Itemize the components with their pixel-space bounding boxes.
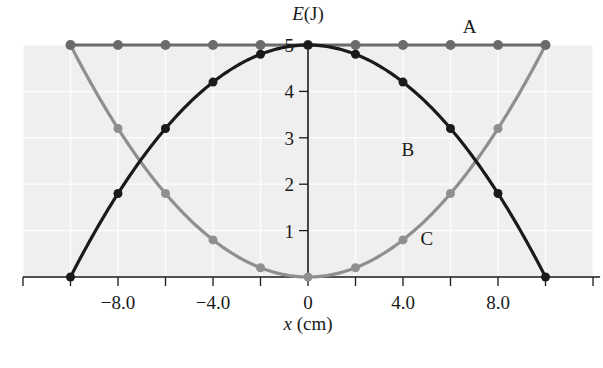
data-point xyxy=(541,40,551,50)
data-point xyxy=(161,40,171,50)
x-tick-label: 4.0 xyxy=(391,292,415,313)
y-tick-label: 1 xyxy=(285,221,295,242)
data-point xyxy=(541,273,550,282)
y-tick-label: 2 xyxy=(285,174,295,195)
data-point xyxy=(494,189,503,198)
data-point xyxy=(66,273,75,282)
y-axis-label: E(J) xyxy=(291,3,324,25)
data-point xyxy=(446,189,455,198)
x-axis-label: x (cm) xyxy=(282,313,332,335)
data-point xyxy=(446,40,456,50)
data-point xyxy=(399,78,408,87)
data-point xyxy=(493,40,503,50)
data-point xyxy=(351,50,360,59)
data-point xyxy=(399,235,408,244)
y-tick-label: 3 xyxy=(285,128,295,149)
data-point xyxy=(256,50,265,59)
data-point xyxy=(161,124,170,133)
energy-vs-position-chart: −8.0−4.004.08.012345 E(J) x (cm) ABC xyxy=(0,0,603,368)
x-tick-label: −4.0 xyxy=(196,292,230,313)
x-tick-label: 8.0 xyxy=(486,292,510,313)
series-label-C: C xyxy=(420,228,433,249)
data-point xyxy=(209,78,218,87)
series-label-A: A xyxy=(463,16,477,37)
data-point xyxy=(398,40,408,50)
data-point xyxy=(494,124,503,133)
data-point xyxy=(113,40,123,50)
series-label-B: B xyxy=(401,139,414,160)
data-point xyxy=(114,124,123,133)
data-point xyxy=(114,189,123,198)
data-point xyxy=(304,273,313,282)
data-point xyxy=(66,40,76,50)
data-point xyxy=(351,263,360,272)
data-point xyxy=(161,189,170,198)
data-point xyxy=(209,235,218,244)
x-tick-label: 0 xyxy=(303,292,313,313)
data-point xyxy=(256,40,266,50)
data-point xyxy=(351,40,361,50)
y-tick-label: 4 xyxy=(285,81,295,102)
data-point xyxy=(208,40,218,50)
data-point xyxy=(446,124,455,133)
data-point xyxy=(304,41,313,50)
y-tick-label: 5 xyxy=(285,35,295,56)
x-tick-label: −8.0 xyxy=(101,292,135,313)
data-point xyxy=(256,263,265,272)
